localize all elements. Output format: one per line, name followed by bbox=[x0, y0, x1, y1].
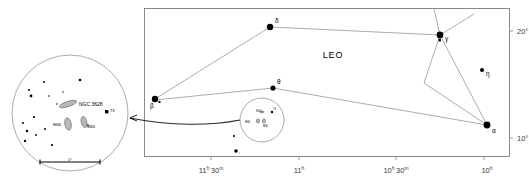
star-label-beta: β bbox=[150, 102, 154, 110]
x-axis-label-group: 11h30m bbox=[199, 165, 224, 175]
field-star bbox=[44, 128, 46, 130]
x-tick-hour: 10 bbox=[383, 166, 391, 175]
m66-marker-shape bbox=[256, 119, 259, 123]
locator-label-m66: M66 bbox=[245, 120, 251, 124]
ngc-3628-galaxy-shape bbox=[59, 99, 78, 110]
field-star bbox=[43, 81, 45, 83]
star-iota-leonis bbox=[234, 149, 238, 153]
field-star bbox=[24, 140, 26, 142]
line-beta-delta bbox=[155, 27, 270, 99]
star-eta-leonis bbox=[480, 68, 484, 72]
x-tick-hour-sup: h bbox=[302, 165, 305, 171]
y-axis-labels: 20° 10° bbox=[517, 27, 528, 143]
locator-label-ngc: NGC bbox=[256, 109, 262, 113]
star-alpha-leonis bbox=[484, 122, 491, 129]
leo-triplet-detail-inset: NGC 3628 M66 M65 73 1° bbox=[12, 55, 128, 171]
x-axis-label-group: 10h bbox=[481, 165, 492, 175]
detail-circle-outline bbox=[12, 55, 128, 171]
x-tick-hour: 11 bbox=[199, 166, 207, 175]
line-sickle-alpha bbox=[424, 83, 487, 125]
x-axis-labels: 11h30m 11h 10h30m 10h bbox=[199, 165, 493, 175]
field-star bbox=[233, 135, 235, 137]
star-gamma-companion bbox=[439, 39, 441, 41]
field-star bbox=[62, 91, 63, 92]
field-star bbox=[35, 134, 37, 136]
field-star bbox=[28, 89, 30, 91]
field-star bbox=[51, 144, 53, 146]
star-delta-leonis bbox=[267, 24, 273, 30]
star-73-detail bbox=[105, 110, 108, 113]
locator-label-m65: M65 bbox=[263, 124, 269, 128]
x-tick-min-sup: m bbox=[404, 165, 408, 171]
y-axis-label-20: 20° bbox=[517, 27, 528, 36]
star-label-alpha: α bbox=[492, 127, 496, 134]
field-star bbox=[22, 122, 24, 124]
star-chart-figure: δ θ β γ η α ι LEO NGC M66 M65 bbox=[0, 0, 529, 189]
field-star bbox=[33, 116, 35, 118]
line-gamma-down bbox=[424, 35, 440, 83]
detail-field-stars bbox=[22, 79, 89, 146]
x-tick-min: 30 bbox=[396, 166, 404, 175]
m66-label: M66 bbox=[53, 122, 62, 127]
x-tick-min: 30 bbox=[211, 166, 219, 175]
x-tick-hour-sup: h bbox=[490, 165, 493, 171]
chart-stars: δ θ β γ η α ι bbox=[150, 17, 496, 155]
line-theta-alpha bbox=[273, 88, 487, 125]
star-beta-companion bbox=[159, 101, 161, 103]
star-label-delta: δ bbox=[275, 17, 279, 24]
axis-ticks-bottom bbox=[211, 157, 484, 161]
field-star bbox=[48, 95, 50, 97]
x-tick-hour: 10 bbox=[481, 166, 489, 175]
detail-connector-line bbox=[130, 118, 240, 124]
axis-ticks-right bbox=[510, 31, 514, 138]
m66-galaxy-shape bbox=[64, 117, 72, 130]
star-label-eta: η bbox=[486, 70, 490, 78]
star-73-label: 73 bbox=[110, 108, 115, 113]
line-delta-gamma bbox=[270, 27, 440, 35]
locator-circle bbox=[240, 98, 284, 142]
chart-frame bbox=[145, 9, 510, 157]
star-theta-leonis bbox=[270, 85, 275, 90]
field-star bbox=[30, 95, 33, 98]
locator-label-73: 73 bbox=[273, 107, 276, 111]
star-label-iota: ι bbox=[239, 152, 240, 155]
ngc-3628-label: NGC 3628 bbox=[79, 101, 103, 107]
field-star bbox=[26, 130, 28, 132]
constellation-lines bbox=[155, 9, 487, 125]
constellation-name-label: LEO bbox=[323, 50, 343, 60]
y-axis-label-10: 10° bbox=[517, 134, 528, 143]
star-73-marker-dot bbox=[271, 111, 273, 113]
line-beta-theta bbox=[155, 88, 273, 100]
star-gamma-leonis bbox=[437, 32, 444, 39]
x-tick-min-sup: m bbox=[219, 165, 223, 171]
star-label-gamma: γ bbox=[445, 35, 449, 43]
x-tick-hour: 11 bbox=[294, 166, 302, 175]
line-gamma-upright bbox=[440, 14, 474, 35]
field-star bbox=[79, 79, 82, 82]
detail-connector-arrow bbox=[130, 115, 137, 121]
leo-triplet-locator: NGC M66 M65 73 bbox=[240, 98, 284, 142]
star-label-theta: θ bbox=[277, 78, 281, 85]
m65-label: M65 bbox=[87, 124, 96, 129]
scale-bar-label: 1° bbox=[68, 157, 72, 162]
line-gamma-up bbox=[434, 9, 440, 35]
field-star bbox=[56, 103, 58, 105]
x-tick-hour-sup: h bbox=[392, 165, 395, 171]
x-axis-label-group: 10h30m bbox=[383, 165, 408, 175]
chart-canvas: δ θ β γ η α ι LEO NGC M66 M65 bbox=[0, 0, 529, 189]
m65-marker-shape bbox=[262, 119, 265, 123]
line-gamma-alpha bbox=[440, 35, 487, 125]
x-axis-label-group: 11h bbox=[294, 165, 305, 175]
x-tick-hour-sup: h bbox=[207, 165, 210, 171]
